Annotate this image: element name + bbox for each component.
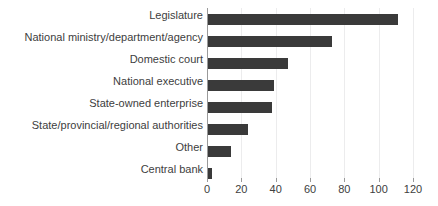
bar: [207, 102, 272, 113]
tick-label: 0: [204, 182, 210, 196]
bar: [207, 146, 231, 157]
category-label: State-owned enterprise: [89, 96, 203, 110]
category-axis: Legislature National ministry/department…: [0, 8, 203, 178]
category-label: Central bank: [141, 162, 203, 176]
bar: [207, 36, 332, 47]
category-label: Legislature: [149, 8, 203, 22]
category-label: State/provincial/regional authorities: [32, 118, 203, 132]
bar-chart: Legislature National ministry/department…: [0, 0, 438, 206]
category-label: National ministry/department/agency: [24, 30, 203, 44]
tick-label: 40: [270, 182, 282, 196]
bar: [207, 58, 288, 69]
value-axis-labels: 020406080100120: [207, 182, 413, 200]
value-axis-line: [207, 8, 208, 178]
gridline: [413, 8, 414, 178]
plot-area: [207, 8, 413, 178]
category-label: Other: [175, 140, 203, 154]
bar-series: [207, 8, 413, 178]
tick-label: 20: [235, 182, 247, 196]
bar: [207, 14, 398, 25]
tick-label: 100: [369, 182, 387, 196]
category-label: National executive: [113, 74, 203, 88]
tick-label: 80: [338, 182, 350, 196]
category-label: Domestic court: [130, 52, 203, 66]
tick-label: 60: [304, 182, 316, 196]
bar: [207, 80, 274, 91]
tick-label: 120: [404, 182, 422, 196]
bar: [207, 124, 248, 135]
